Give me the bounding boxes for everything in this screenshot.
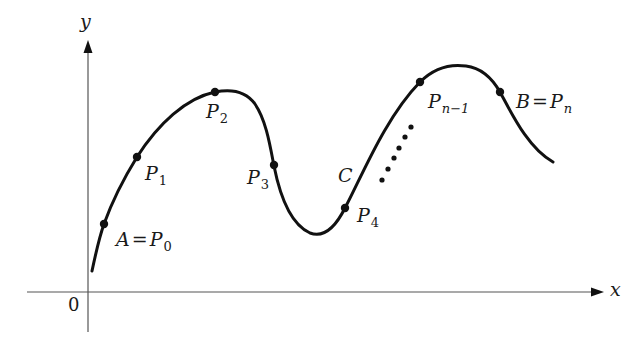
- label-pn1-sub: n−1: [442, 101, 470, 116]
- point-pn-minus-1: [416, 78, 424, 86]
- label-p4-base: P: [357, 204, 370, 226]
- label-pn-minus-1: Pn−1: [428, 92, 469, 111]
- label-p4-sub: 4: [371, 215, 379, 230]
- point-p4: [341, 204, 349, 212]
- label-p1-sub: 1: [159, 173, 167, 188]
- label-pn-prefix: B: [516, 90, 530, 112]
- label-p0-prefix: A: [116, 228, 130, 250]
- label-pn: B=Pn: [516, 92, 572, 111]
- label-p3-sub: 3: [261, 177, 269, 192]
- label-p2: P2: [206, 102, 228, 121]
- label-p1: P1: [145, 164, 167, 183]
- x-axis-arrow-icon: [591, 288, 604, 297]
- point-p3: [270, 161, 278, 169]
- label-p0-sub: 0: [163, 239, 171, 254]
- label-pn1-base: P: [428, 90, 441, 112]
- label-pn-base: P: [550, 90, 563, 112]
- x-axis-label: x: [610, 280, 621, 299]
- label-p4: P4: [357, 206, 379, 225]
- label-p3-base: P: [247, 166, 260, 188]
- label-p2-sub: 2: [220, 111, 228, 126]
- point-p0: [100, 220, 108, 228]
- label-p2-base: P: [206, 100, 219, 122]
- label-p1-base: P: [145, 162, 158, 184]
- y-axis-label: y: [80, 12, 91, 31]
- point-pn: [496, 88, 504, 96]
- y-axis-arrow-icon: [84, 40, 93, 53]
- axes: [27, 40, 604, 332]
- label-p0-eq: =: [132, 228, 148, 250]
- label-pn-eq: =: [532, 90, 548, 112]
- diagram-canvas: [0, 0, 629, 342]
- label-pn-sub: n: [564, 101, 572, 116]
- point-p2: [211, 88, 219, 96]
- curve-label: C: [338, 166, 353, 185]
- origin-label: 0: [68, 296, 79, 314]
- label-p0-base: P: [150, 228, 163, 250]
- label-p3: P3: [247, 168, 269, 187]
- point-p1: [133, 153, 141, 161]
- label-p0: A=P0: [116, 230, 172, 249]
